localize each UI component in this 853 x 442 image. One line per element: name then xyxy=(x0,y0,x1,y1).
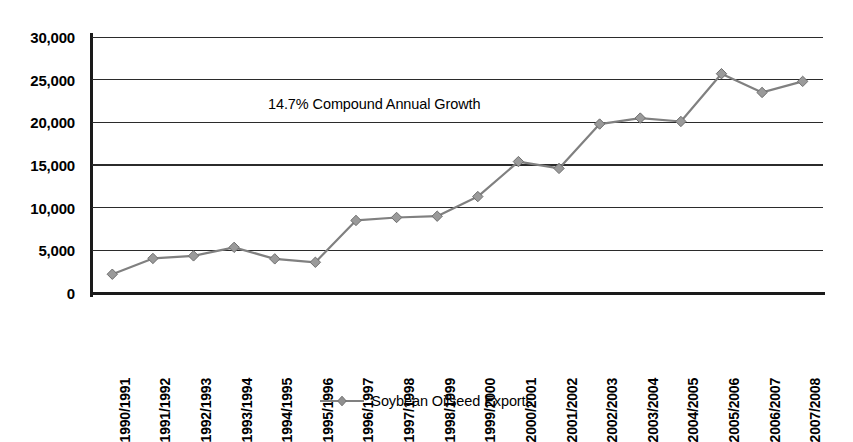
y-tick-label: 5,000 xyxy=(38,243,75,258)
plot-area xyxy=(92,37,823,293)
y-tick-label: 0 xyxy=(67,286,75,301)
x-tick-label: 2007/2008 xyxy=(808,378,822,442)
x-tick-label: 2001/2002 xyxy=(565,378,579,442)
data-point-marker xyxy=(188,251,198,261)
x-tick-label: 1995/1996 xyxy=(321,378,335,442)
x-tick-label: 2002/2003 xyxy=(605,378,619,442)
y-tick-label: 30,000 xyxy=(30,30,75,45)
x-tick-label: 2006/2007 xyxy=(768,378,782,442)
x-tick-label: 1994/1995 xyxy=(280,378,294,442)
y-tick-label: 15,000 xyxy=(30,158,75,173)
x-tick-label: 2004/2005 xyxy=(686,378,700,442)
data-point-marker xyxy=(391,212,401,222)
growth-annotation: 14.7% Compound Annual Growth xyxy=(268,96,480,112)
data-point-marker xyxy=(432,211,442,221)
data-point-marker xyxy=(757,87,767,97)
y-tick-label: 20,000 xyxy=(30,115,75,130)
x-tick-label: 1998/1999 xyxy=(443,378,457,442)
x-tick-label: 1992/1993 xyxy=(199,378,213,442)
x-tick-label: 1991/1992 xyxy=(158,378,172,442)
x-tick-label: 2000/2001 xyxy=(524,378,538,442)
x-tick-label: 2003/2004 xyxy=(646,378,660,442)
y-tick-label: 25,000 xyxy=(30,72,75,87)
legend-line-marker-icon xyxy=(320,394,364,408)
data-point-marker xyxy=(148,253,158,263)
chart-legend: Soybean Oilseed Exports xyxy=(0,393,853,409)
legend-label: Soybean Oilseed Exports xyxy=(371,393,532,409)
x-tick-label: 1990/1991 xyxy=(118,378,132,442)
series-plot xyxy=(92,37,823,293)
x-tick-label: 1999/2000 xyxy=(483,378,497,442)
y-axis: 30,00025,00020,00015,00010,0005,0000 xyxy=(0,0,84,434)
x-axis: 1990/19911991/19921992/19931993/19941994… xyxy=(92,298,823,384)
x-tick-label: 1996/1997 xyxy=(361,378,375,442)
data-point-marker xyxy=(107,269,117,279)
x-tick-label: 1993/1994 xyxy=(240,378,254,442)
x-tick-label: 1997/1998 xyxy=(402,378,416,442)
data-point-marker xyxy=(270,254,280,264)
data-point-marker xyxy=(797,76,807,86)
x-tick-label: 2005/2006 xyxy=(727,378,741,442)
y-tick-label: 10,000 xyxy=(30,200,75,215)
legend-entry-soybean-oilseed-exports: Soybean Oilseed Exports xyxy=(320,393,532,409)
